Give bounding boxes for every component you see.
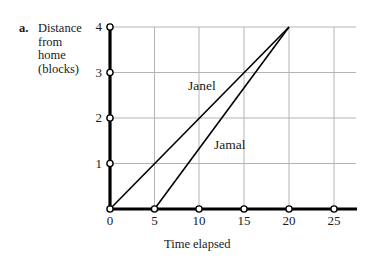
y-tick-marker-2: [107, 115, 113, 121]
x-tick-label-20: 20: [277, 213, 301, 229]
x-tick-label-0: 0: [98, 213, 122, 229]
item-letter: a.: [19, 22, 28, 36]
x-tick-label-25: 25: [322, 213, 346, 229]
x-tick-label-5: 5: [143, 213, 167, 229]
x-tick-marker-25: [331, 206, 337, 212]
y-tick-label-3: 3: [88, 65, 102, 81]
series-label-jamal: Jamal: [214, 137, 246, 153]
y-axis-title: Distance from home (blocks): [38, 22, 82, 76]
x-tick-marker-10: [196, 206, 202, 212]
y-axis-title-line-2: from: [38, 36, 82, 50]
y-tick-marker-3: [107, 69, 113, 75]
series-label-janel: Janel: [188, 78, 216, 94]
x-tick-label-10: 10: [187, 213, 211, 229]
x-axis-title: Time elapsed: [164, 238, 231, 252]
y-axis-title-line-3: home: [38, 49, 82, 63]
y-tick-marker-4: [107, 24, 113, 30]
y-axis-title-line-4: (blocks): [38, 63, 82, 77]
y-axis-title-line-1: Distance: [38, 22, 82, 36]
figure-panel: a. Distance from home (blocks) Time elap…: [0, 0, 371, 265]
y-tick-label-2: 2: [88, 110, 102, 126]
x-tick-marker-0: [107, 206, 113, 212]
x-tick-marker-20: [286, 206, 292, 212]
x-tick-marker-5: [151, 206, 157, 212]
x-tick-label-15: 15: [232, 213, 256, 229]
x-tick-marker-15: [241, 206, 247, 212]
y-tick-label-4: 4: [88, 19, 102, 35]
y-tick-label-1: 1: [88, 156, 102, 172]
y-tick-marker-1: [107, 160, 113, 166]
